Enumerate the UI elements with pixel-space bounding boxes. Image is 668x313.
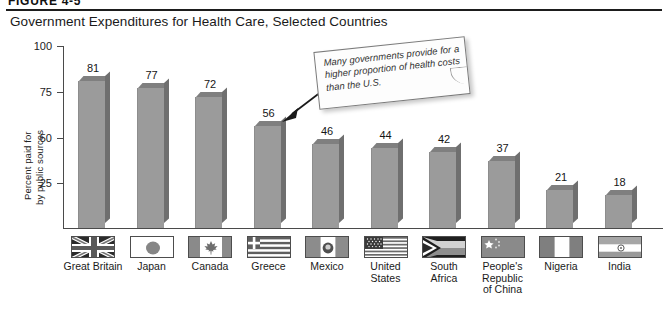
y-tick-50 xyxy=(57,138,63,139)
callout-fold-corner xyxy=(450,66,469,85)
bar-great-britain[interactable] xyxy=(78,81,105,228)
callout-text: Many governments provide for a higher pr… xyxy=(323,43,464,94)
figure-root: FIGURE 4-5 Government Expenditures for H… xyxy=(0,0,668,313)
bar-side-face xyxy=(632,186,637,223)
category-label-line: India xyxy=(583,261,657,273)
bar-nigeria[interactable] xyxy=(546,190,573,228)
bar-side-face xyxy=(573,180,578,223)
bar-value-label: 42 xyxy=(421,133,467,145)
bar-side-face xyxy=(105,71,110,223)
y-tick-label-100: 100 xyxy=(22,40,52,52)
bar-south-africa[interactable] xyxy=(429,152,456,228)
flag-india-icon xyxy=(598,236,642,258)
bar-value-label: 77 xyxy=(129,69,175,81)
y-tick-100 xyxy=(57,46,63,47)
y-tick-label-75: 75 xyxy=(22,86,52,98)
bar-side-face xyxy=(281,117,286,223)
bar-mexico[interactable] xyxy=(312,144,339,228)
y-tick-75 xyxy=(57,92,63,93)
bar-value-label: 81 xyxy=(70,62,116,74)
flag-mexico-icon xyxy=(305,236,349,258)
bar-value-label: 72 xyxy=(187,78,233,90)
bar-side-face xyxy=(222,87,227,223)
bar-side-face xyxy=(398,138,403,223)
flag-japan-icon xyxy=(130,236,174,258)
flag-south-africa-icon xyxy=(422,236,466,258)
bar-japan[interactable] xyxy=(137,88,164,228)
bar-value-label: 21 xyxy=(538,171,584,183)
category-label-line: of China xyxy=(466,284,540,296)
y-tick-25 xyxy=(57,183,63,184)
bar-canada[interactable] xyxy=(195,97,222,228)
y-axis-line xyxy=(63,46,64,229)
y-axis-title-line2: by public sources xyxy=(34,130,45,205)
bar-side-face xyxy=(456,142,461,223)
callout-box: Many governments provide for a higher pr… xyxy=(313,36,470,110)
bar-greece[interactable] xyxy=(254,126,281,228)
bar-side-face xyxy=(339,135,344,223)
flag-canada-icon xyxy=(188,236,232,258)
x-axis-baseline xyxy=(63,228,663,229)
category-label: India xyxy=(583,261,657,273)
flag-nigeria-icon xyxy=(539,236,583,258)
bar-india[interactable] xyxy=(605,195,632,228)
flag-china-icon xyxy=(481,236,525,258)
flag-great-britain-icon xyxy=(71,236,115,258)
flag-united-states-icon xyxy=(364,236,408,258)
bar-side-face xyxy=(515,151,520,223)
y-axis-title-line1: Percent paid for xyxy=(22,131,33,200)
bar-value-label: 44 xyxy=(363,129,409,141)
bar-side-face xyxy=(164,78,169,223)
bar-value-label: 37 xyxy=(480,142,526,154)
bar-chart: 100 75 50 25 Percent paid for by public … xyxy=(0,0,668,313)
bar-value-label: 18 xyxy=(597,176,643,188)
flag-greece-icon xyxy=(247,236,291,258)
bar-united-states[interactable] xyxy=(371,148,398,228)
bar-people-s-republic-of-china[interactable] xyxy=(488,161,515,228)
